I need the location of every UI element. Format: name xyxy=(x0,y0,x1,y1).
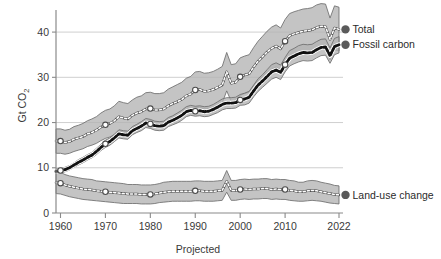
x-tick-label: 2000 xyxy=(228,220,252,232)
data-marker-total xyxy=(282,38,287,43)
y-tick-label: 30 xyxy=(37,71,49,83)
y-tick-label: 10 xyxy=(37,161,49,173)
x-tick-label: 1990 xyxy=(184,220,208,232)
legend-dot-land-use-change xyxy=(341,191,349,199)
data-marker-fossil-carbon xyxy=(282,62,287,67)
x-tick-label: 1970 xyxy=(94,220,118,232)
data-marker-total xyxy=(237,74,242,79)
y-tick-label: 0 xyxy=(43,207,49,219)
x-tick-label: 1980 xyxy=(139,220,163,232)
data-marker-fossil-carbon xyxy=(193,109,198,114)
data-marker-total xyxy=(58,138,63,143)
data-marker-land-use-change xyxy=(237,187,242,192)
data-marker-land-use-change xyxy=(103,189,108,194)
data-marker-total xyxy=(148,106,153,111)
y-tick-label: 40 xyxy=(37,26,49,38)
data-marker-total xyxy=(103,122,108,127)
y-tick-label: 20 xyxy=(37,116,49,128)
chart-canvas: 010203040 1960197019801990200020102022 G… xyxy=(0,0,441,259)
data-marker-fossil-carbon xyxy=(237,97,242,102)
co2-emissions-chart: 010203040 1960197019801990200020102022 G… xyxy=(0,0,441,259)
legend-dot-total xyxy=(341,25,349,33)
legend-label-land-use-change: Land-use change xyxy=(353,189,434,201)
data-marker-land-use-change xyxy=(58,180,63,185)
data-marker-fossil-carbon xyxy=(103,141,108,146)
legend-label-total: Total xyxy=(353,23,375,35)
data-marker-land-use-change xyxy=(282,187,287,192)
legend-label-fossil-carbon: Fossil carbon xyxy=(353,38,416,50)
data-marker-total xyxy=(193,87,198,92)
data-marker-fossil-carbon xyxy=(148,121,153,126)
data-marker-land-use-change xyxy=(148,192,153,197)
x-tick-label: 2022 xyxy=(327,220,351,232)
x-tick-label: 2010 xyxy=(273,220,297,232)
data-marker-land-use-change xyxy=(193,188,198,193)
x-tick-label: 1960 xyxy=(49,220,73,232)
legend-dot-fossil-carbon xyxy=(341,41,349,49)
x-axis-title: Projected xyxy=(176,243,221,255)
data-marker-fossil-carbon xyxy=(58,168,63,173)
